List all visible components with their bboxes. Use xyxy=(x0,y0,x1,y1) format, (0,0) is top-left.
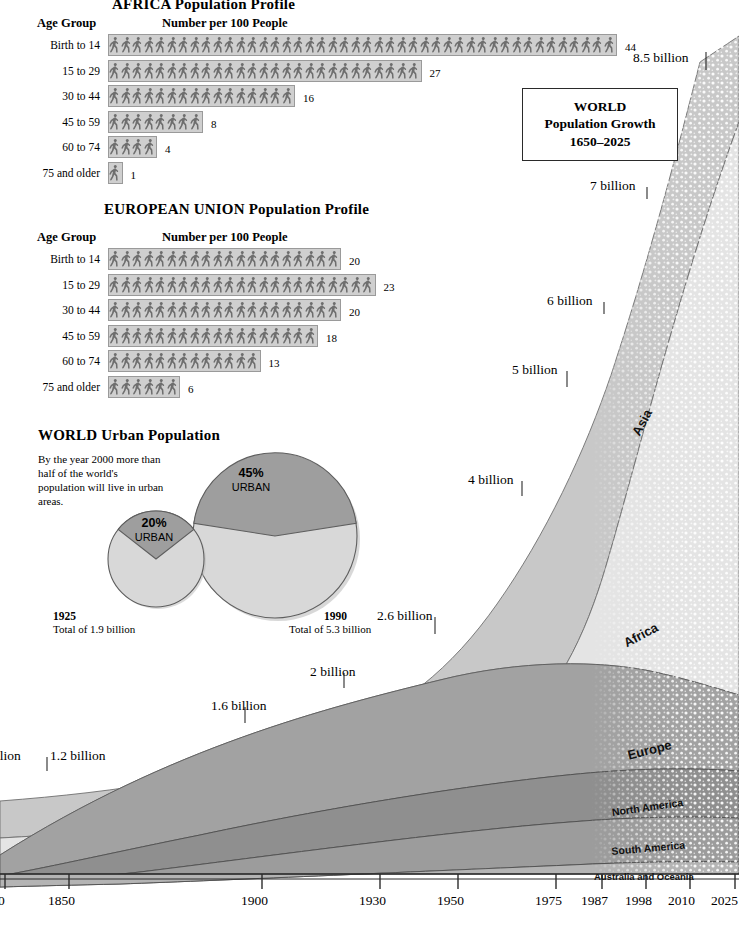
person-icon xyxy=(109,352,121,370)
person-icon xyxy=(224,327,236,345)
person-icon xyxy=(109,113,121,131)
person-icon xyxy=(121,352,133,370)
pie-1925-percent: 20% URBAN xyxy=(123,516,185,544)
person-icon xyxy=(167,327,179,345)
person-icon xyxy=(259,301,271,319)
person-icon xyxy=(259,327,271,345)
person-icon xyxy=(121,250,133,268)
axis-year-2010: 2010 xyxy=(668,893,695,909)
person-icon xyxy=(201,327,213,345)
person-icon xyxy=(236,250,248,268)
person-icon xyxy=(477,36,489,54)
axis-year-1998: 1998 xyxy=(625,893,652,909)
person-icon xyxy=(144,36,156,54)
pictogram-value: 6 xyxy=(188,383,194,395)
callout-1-billion: llion xyxy=(0,748,21,764)
person-icon xyxy=(167,276,179,294)
person-icon xyxy=(339,276,351,294)
person-icon xyxy=(178,276,190,294)
person-icon xyxy=(167,378,179,396)
pie-1990-percent-word: URBAN xyxy=(232,481,271,493)
person-icon xyxy=(121,327,133,345)
pictogram-value: 20 xyxy=(349,306,360,318)
person-icon xyxy=(190,87,202,105)
person-icon xyxy=(132,352,144,370)
age-group-label: 75 and older xyxy=(0,167,100,179)
person-icon xyxy=(224,62,236,80)
person-icon xyxy=(236,327,248,345)
pictogram-bar xyxy=(108,274,376,296)
title-line-2: Population Growth xyxy=(527,115,673,132)
person-icon xyxy=(581,36,593,54)
person-icon xyxy=(339,62,351,80)
person-icon xyxy=(190,301,202,319)
pictogram-bar xyxy=(108,136,157,158)
person-icon xyxy=(155,250,167,268)
axis-year-1850: 1850 xyxy=(48,893,75,909)
pictogram-bar xyxy=(108,325,318,347)
africa-number-header: Number per 100 People xyxy=(162,16,288,31)
age-group-label: 45 to 59 xyxy=(0,116,100,128)
person-icon xyxy=(270,276,282,294)
person-icon xyxy=(121,138,133,156)
person-icon xyxy=(190,250,202,268)
person-icon xyxy=(109,87,121,105)
person-icon xyxy=(443,36,455,54)
person-icon xyxy=(362,36,374,54)
person-icon xyxy=(431,36,443,54)
person-icon xyxy=(247,62,259,80)
band-north-america xyxy=(0,769,739,884)
person-icon xyxy=(512,36,524,54)
person-icon xyxy=(213,62,225,80)
eu-number-header: Number per 100 People xyxy=(162,230,288,245)
person-icon xyxy=(178,62,190,80)
person-icon xyxy=(213,36,225,54)
person-icon xyxy=(408,62,420,80)
person-icon xyxy=(270,301,282,319)
person-icon xyxy=(247,87,259,105)
person-icon xyxy=(328,250,340,268)
person-icon xyxy=(259,62,271,80)
person-icon xyxy=(155,352,167,370)
person-icon xyxy=(213,352,225,370)
person-icon xyxy=(236,62,248,80)
person-icon xyxy=(201,87,213,105)
person-icon xyxy=(121,378,133,396)
axis-year-0: 0 xyxy=(0,893,5,909)
axis-year-1950: 1950 xyxy=(437,893,464,909)
pictogram-bar xyxy=(108,162,123,184)
person-icon xyxy=(190,113,202,131)
person-icon xyxy=(282,301,294,319)
person-icon xyxy=(397,62,409,80)
axis-year-1900: 1900 xyxy=(241,893,268,909)
person-icon xyxy=(167,36,179,54)
person-icon xyxy=(247,327,259,345)
person-icon xyxy=(259,36,271,54)
person-icon xyxy=(328,301,340,319)
person-icon xyxy=(224,87,236,105)
person-icon xyxy=(270,250,282,268)
person-icon xyxy=(316,36,328,54)
person-icon xyxy=(224,276,236,294)
person-icon xyxy=(293,36,305,54)
axis-year-1930: 1930 xyxy=(359,893,386,909)
person-icon xyxy=(201,352,213,370)
person-icon xyxy=(224,301,236,319)
age-group-label: Birth to 14 xyxy=(0,39,100,51)
continent-label-africa: Africa xyxy=(621,620,661,651)
person-icon xyxy=(385,36,397,54)
pictogram-value: 18 xyxy=(326,332,337,344)
person-icon xyxy=(121,87,133,105)
person-icon xyxy=(316,250,328,268)
callout-5-billion: 5 billion xyxy=(512,362,557,378)
age-group-label: 45 to 59 xyxy=(0,330,100,342)
pictogram-value: 16 xyxy=(303,92,314,104)
person-icon xyxy=(109,301,121,319)
person-icon xyxy=(236,301,248,319)
person-icon xyxy=(155,301,167,319)
person-icon xyxy=(109,164,121,182)
age-group-label: 15 to 29 xyxy=(0,279,100,291)
person-icon xyxy=(167,62,179,80)
person-icon xyxy=(236,87,248,105)
africa-age-group-header: Age Group xyxy=(37,16,96,31)
